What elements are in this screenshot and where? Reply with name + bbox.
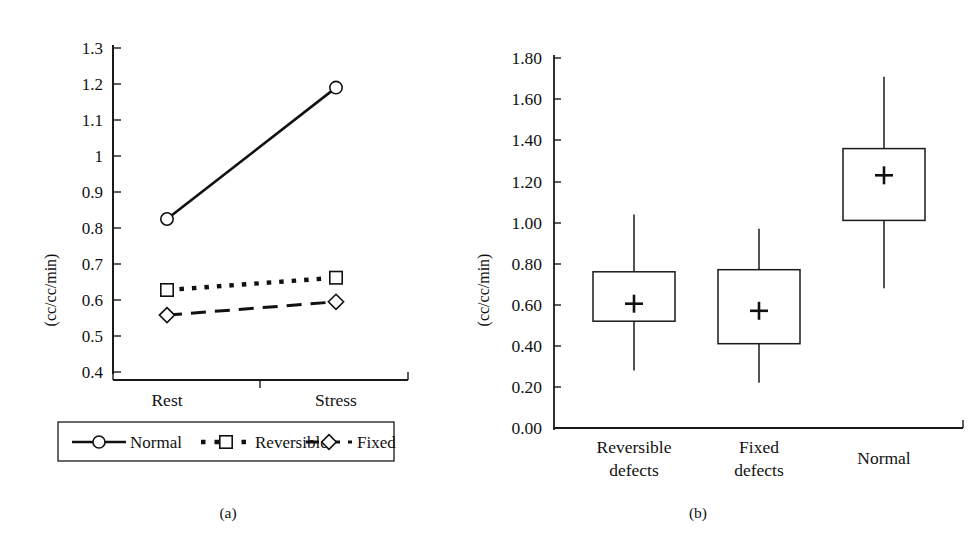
y-tick-label: 0.4	[82, 363, 104, 382]
panel-b-box-plot: (cc/cc/min) 1.80 1.60 1.40 1.20 1.00 0.8…	[470, 0, 980, 544]
y-tick-label: 0.80	[511, 254, 542, 274]
series-normal	[161, 81, 342, 225]
y-tick-label: 1.00	[511, 213, 542, 233]
y-tick-label: 1.40	[511, 130, 542, 150]
y-axis-title-b: (cc/cc/min)	[475, 254, 493, 327]
box-plot-reversible-defects[interactable]	[593, 214, 675, 370]
series-reversible-marker-stress	[330, 272, 342, 284]
y-axis-ticks-b	[554, 58, 561, 428]
caption-b: (b)	[689, 504, 707, 522]
box-plot-normal[interactable]	[843, 77, 925, 289]
y-tick-label: 0.20	[511, 377, 542, 397]
series-normal-line	[167, 88, 336, 219]
y-tick-label: 1.60	[511, 89, 542, 109]
y-tick-labels-a: 1.3 1.2 1.1 1 0.9 0.8 0.7 0.6 0.5 0.4	[82, 39, 104, 382]
box-iqr	[843, 149, 925, 221]
series-fixed-marker-stress	[328, 294, 343, 309]
y-tick-label: 0.00	[511, 418, 542, 438]
legend-a: Normal Reversible Fixed	[58, 422, 396, 461]
y-tick-label: 0.7	[82, 255, 104, 274]
panel-a-line-chart: (cc/cc/min) 1.3 1.2 1.1 1 0.9 0.8 0.7 0.…	[0, 0, 470, 544]
x-category-label-reversible-line2: defects	[609, 460, 659, 480]
x-category-label-fixed-line1: Fixed	[739, 437, 779, 457]
line-chart-svg: (cc/cc/min) 1.3 1.2 1.1 1 0.9 0.8 0.7 0.…	[0, 0, 470, 544]
y-tick-label: 1.1	[82, 111, 103, 130]
y-tick-label: 1.3	[82, 39, 103, 58]
box-plot-svg: (cc/cc/min) 1.80 1.60 1.40 1.20 1.00 0.8…	[470, 0, 980, 544]
y-tick-label: 0.6	[82, 291, 103, 310]
series-reversible-marker-rest	[161, 284, 173, 296]
x-category-label-reversible-line1: Reversible	[597, 437, 672, 457]
x-category-label-normal: Normal	[857, 448, 911, 468]
x-category-label-fixed-line2: defects	[734, 460, 784, 480]
y-tick-label: 0.5	[82, 327, 103, 346]
x-category-label-rest: Rest	[151, 390, 182, 410]
y-tick-label: 0.60	[511, 295, 542, 315]
y-tick-label: 1.2	[82, 75, 103, 94]
legend-normal-label: Normal	[130, 433, 182, 452]
y-tick-label: 0.8	[82, 219, 103, 238]
figure-container: (cc/cc/min) 1.3 1.2 1.1 1 0.9 0.8 0.7 0.…	[0, 0, 980, 544]
series-reversible	[161, 272, 342, 297]
series-normal-marker-stress	[330, 81, 342, 93]
y-axis-ticks-a	[113, 48, 121, 372]
legend-normal-marker	[93, 436, 105, 448]
series-fixed-line	[167, 302, 336, 315]
y-tick-label: 1.80	[511, 48, 542, 68]
box-plot-fixed-defects[interactable]	[718, 229, 800, 383]
legend-fixed-label: Fixed	[357, 433, 396, 452]
y-tick-label: 0.40	[511, 336, 542, 356]
y-axis-title-a: (cc/cc/min)	[42, 254, 60, 327]
series-fixed	[159, 294, 343, 322]
x-category-labels-b: Reversible defects Fixed defects Normal	[597, 437, 911, 480]
y-tick-label: 1.20	[511, 172, 542, 192]
y-tick-labels-b: 1.80 1.60 1.40 1.20 1.00 0.80 0.60 0.40 …	[511, 48, 542, 438]
legend-reversible-marker	[220, 436, 232, 448]
y-tick-label: 0.9	[82, 183, 103, 202]
series-normal-marker-rest	[161, 213, 173, 225]
x-category-label-stress: Stress	[315, 390, 357, 410]
series-fixed-marker-rest	[159, 308, 174, 323]
caption-a: (a)	[219, 504, 236, 522]
y-tick-label: 1	[95, 147, 104, 166]
series-reversible-line	[167, 278, 336, 290]
